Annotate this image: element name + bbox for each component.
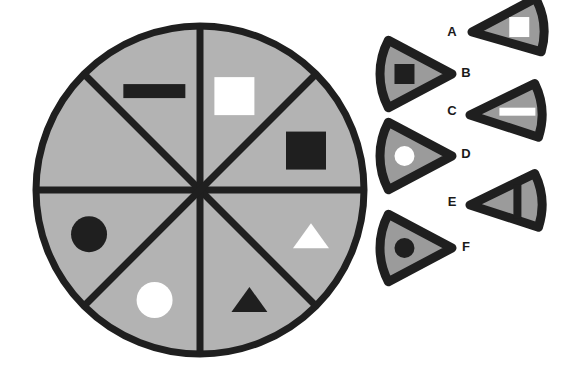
wedge-option-C-label: C	[447, 103, 457, 118]
wedge-option-B-label: B	[461, 65, 470, 80]
disc-shape-square	[286, 132, 326, 170]
disc-shape-square	[214, 77, 254, 115]
wedge-option-E-shape-bar-vertical	[513, 185, 521, 219]
figure-canvas: ABCDEF	[0, 0, 567, 384]
wedge-option-D-shape-circle	[394, 146, 414, 166]
disc-shape-bar	[123, 84, 185, 98]
sector-puzzle-figure: ABCDEF	[0, 0, 567, 384]
main-disc	[36, 26, 364, 354]
disc-shape-circle	[137, 282, 173, 318]
wedge-option-A-label: A	[447, 24, 457, 39]
wedge-option-E-label: E	[448, 194, 457, 209]
wedge-option-A-shape-square	[509, 17, 529, 37]
disc-shape-circle	[71, 216, 107, 252]
wedge-option-F-label: F	[462, 239, 470, 254]
wedge-option-F-shape-circle	[394, 238, 414, 258]
wedge-option-C-shape-bar	[499, 108, 535, 116]
wedge-option-D-label: D	[461, 146, 470, 161]
wedge-option-B-shape-square	[394, 64, 414, 84]
